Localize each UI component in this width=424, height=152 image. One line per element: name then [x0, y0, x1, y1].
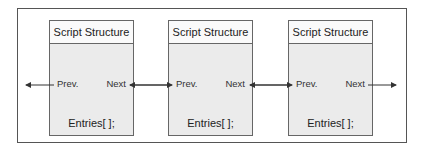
link-arrows [0, 0, 424, 152]
